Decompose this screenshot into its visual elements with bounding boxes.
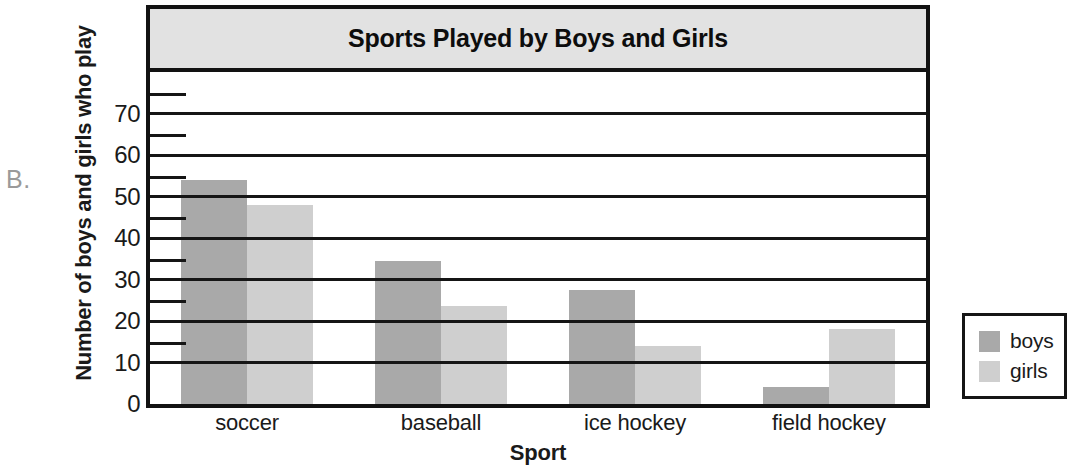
y-tick-label: 50 [86, 185, 140, 209]
y-tick-label: 30 [86, 268, 140, 292]
legend-label-girls: girls [1010, 359, 1048, 383]
x-axis-title: Sport [146, 440, 930, 466]
bar-girls-ice-hockey [635, 346, 701, 404]
x-tick-label: baseball [401, 410, 481, 436]
chart-title: Sports Played by Boys and Girls [348, 24, 728, 53]
axis-tick [150, 259, 186, 262]
x-tick-label: soccer [215, 410, 279, 436]
x-tick-label: ice hockey [584, 410, 686, 436]
gridline [150, 320, 926, 323]
bar-boys-soccer [181, 180, 247, 404]
legend-label-boys: boys [1010, 329, 1054, 353]
gridline [150, 154, 926, 157]
axis-tick [150, 134, 186, 137]
gridline [150, 361, 926, 364]
y-tick-label: 70 [86, 102, 140, 126]
y-tick-label: 20 [86, 309, 140, 333]
y-tick-label: 0 [86, 392, 140, 416]
legend-item-boys[interactable]: boys [979, 326, 1064, 356]
y-tick-label: 60 [86, 143, 140, 167]
bar-girls-field-hockey [829, 329, 895, 404]
y-tick-label: 40 [86, 226, 140, 250]
axis-tick [150, 342, 186, 345]
bar-boys-field-hockey [763, 387, 829, 404]
bar-boys-ice-hockey [569, 290, 635, 404]
legend-item-girls[interactable]: girls [979, 356, 1064, 386]
plot-area [150, 72, 926, 404]
chart-frame: Sports Played by Boys and Girls [146, 5, 930, 408]
axis-tick [150, 217, 186, 220]
bar-boys-baseball [375, 261, 441, 404]
chart-legend: boysgirls [962, 313, 1067, 399]
chart-title-band: Sports Played by Boys and Girls [150, 9, 926, 72]
legend-swatch-boys [979, 331, 1000, 352]
gridline [150, 195, 926, 198]
gridline [150, 278, 926, 281]
axis-tick [150, 300, 186, 303]
x-tick-label: field hockey [772, 410, 886, 436]
gridline [150, 112, 926, 115]
axis-tick [150, 93, 186, 96]
y-axis-tick-labels: 010203040506070 [86, 0, 140, 476]
axis-tick [150, 176, 186, 179]
figure-label: B. [6, 165, 31, 194]
legend-swatch-girls [979, 361, 1000, 382]
gridline [150, 237, 926, 240]
bar-girls-soccer [247, 205, 313, 404]
y-tick-label: 10 [86, 351, 140, 375]
x-axis-tick-labels: soccerbaseballice hockeyfield hockey [146, 410, 930, 444]
